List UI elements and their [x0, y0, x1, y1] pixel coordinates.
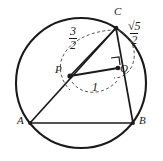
point-a-dot [28, 121, 32, 125]
measure-pq: 1 [92, 81, 98, 93]
geometry-figure: A B C P Q 3 2 1 √5 2 [0, 0, 163, 161]
measure-pc-denominator: 2 [69, 38, 77, 51]
point-label-b: B [139, 115, 146, 126]
point-label-c: C [114, 6, 121, 17]
measure-cq-denominator: 2 [130, 33, 138, 46]
point-label-a: A [17, 115, 24, 126]
measure-cq: √5 2 [127, 17, 142, 46]
measure-pc: 3 2 [69, 22, 77, 51]
point-label-q: Q [120, 63, 128, 74]
point-c-dot [114, 26, 119, 31]
point-b-dot [131, 121, 135, 125]
measure-cq-numerator: √5 [127, 20, 142, 32]
right-angle-marker-icon [111, 57, 120, 65]
measure-pc-numerator: 3 [69, 25, 77, 37]
point-label-p: P [55, 64, 62, 75]
point-p-dot [67, 73, 72, 78]
